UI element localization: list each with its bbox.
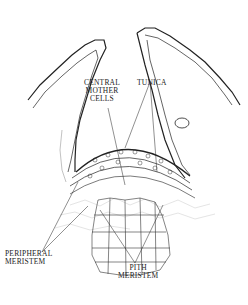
label-line: TUNICA	[137, 79, 167, 87]
tunica-nuclei	[88, 150, 172, 178]
left-leaf-primordium	[28, 40, 106, 182]
label-tunica: TUNICA	[137, 79, 167, 87]
label-central-mother-cells: CENTRAL MOTHER CELLS	[84, 79, 120, 103]
label-line: MERISTEM	[5, 258, 52, 266]
leader-lines	[42, 82, 163, 263]
label-line: MERISTEM	[118, 272, 158, 280]
label-pith-meristem: PITH MERISTEM	[118, 264, 158, 280]
corpus-cells	[55, 198, 215, 230]
right-leaf-primordium	[137, 28, 240, 178]
label-line: CELLS	[84, 95, 120, 103]
bud-bulge	[175, 118, 189, 128]
label-peripheral-meristem: PERIPHERAL MERISTEM	[5, 250, 52, 266]
tunica-dome	[70, 149, 195, 198]
